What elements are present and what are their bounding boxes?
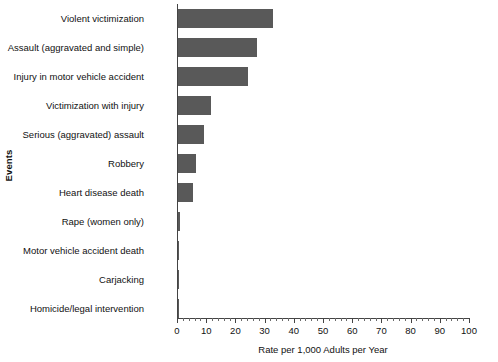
x-axis-major-tick [206, 318, 207, 323]
bar-row: Violent victimization [0, 4, 469, 33]
x-axis-minor-tick [358, 318, 359, 321]
category-label: Violent victimization [61, 4, 144, 33]
x-axis-minor-tick [341, 318, 342, 321]
x-axis-minor-tick [200, 318, 201, 321]
x-axis-minor-tick [405, 318, 406, 321]
x-axis-minor-tick [288, 318, 289, 321]
x-axis-minor-tick [446, 318, 447, 321]
x-axis-minor-tick [317, 318, 318, 321]
bar [178, 67, 248, 86]
x-axis-minor-tick [276, 318, 277, 321]
x-axis-minor-tick [335, 318, 336, 321]
x-axis-major-tick [294, 318, 295, 323]
bar-row: Motor vehicle accident death [0, 236, 469, 265]
bar-row: Robbery [0, 149, 469, 178]
bar [178, 9, 273, 28]
x-axis-minor-tick [346, 318, 347, 321]
x-axis-tick-label: 100 [449, 325, 489, 336]
x-axis-minor-tick [422, 318, 423, 321]
x-axis-minor-tick [253, 318, 254, 321]
x-axis-minor-tick [195, 318, 196, 321]
x-axis-major-tick [265, 318, 266, 323]
x-axis-major-tick [177, 318, 178, 323]
bar-track [178, 265, 470, 294]
x-axis-minor-tick [387, 318, 388, 321]
bar-track [178, 178, 470, 207]
category-label: Injury in motor vehicle accident [14, 62, 144, 91]
x-axis-minor-tick [311, 318, 312, 321]
bar-track [178, 33, 470, 62]
bar-track [178, 294, 470, 323]
bar-row: Carjacking [0, 265, 469, 294]
x-axis-minor-tick [376, 318, 377, 321]
bar [178, 212, 180, 231]
bar [178, 96, 211, 115]
bar-track [178, 236, 470, 265]
bar-chart: Events Violent victimizationAssault (agg… [0, 0, 498, 362]
x-axis-title: Rate per 1,000 Adults per Year [177, 344, 469, 355]
bar-row: Assault (aggravated and simple) [0, 33, 469, 62]
x-axis-minor-tick [300, 318, 301, 321]
category-label: Carjacking [99, 265, 144, 294]
bar [178, 154, 196, 173]
category-label: Rape (women only) [62, 207, 144, 236]
category-label: Robbery [108, 149, 144, 178]
category-label: Serious (aggravated) assault [23, 120, 144, 149]
category-label: Heart disease death [59, 178, 144, 207]
bar-track [178, 4, 470, 33]
x-axis-minor-tick [370, 318, 371, 321]
x-axis-minor-tick [183, 318, 184, 321]
category-label: Victimization with injury [46, 91, 144, 120]
x-axis-minor-tick [218, 318, 219, 321]
bar-row: Rape (women only) [0, 207, 469, 236]
category-label: Homicide/legal intervention [30, 294, 144, 323]
bar-track [178, 120, 470, 149]
x-axis-minor-tick [434, 318, 435, 321]
bar-row: Injury in motor vehicle accident [0, 62, 469, 91]
x-axis-minor-tick [416, 318, 417, 321]
x-axis-minor-tick [189, 318, 190, 321]
bar-track [178, 149, 470, 178]
category-label: Assault (aggravated and simple) [8, 33, 144, 62]
bar [178, 38, 257, 57]
x-axis-minor-tick [230, 318, 231, 321]
bar-row: Heart disease death [0, 178, 469, 207]
x-axis-major-tick [235, 318, 236, 323]
x-axis-major-tick [440, 318, 441, 323]
x-axis-minor-tick [393, 318, 394, 321]
x-axis-major-tick [323, 318, 324, 323]
x-axis-minor-tick [259, 318, 260, 321]
x-axis-minor-tick [364, 318, 365, 321]
x-axis-major-tick [381, 318, 382, 323]
x-axis-minor-tick [270, 318, 271, 321]
bar-track [178, 91, 470, 120]
x-axis-minor-tick [451, 318, 452, 321]
bar-track [178, 62, 470, 91]
x-axis-minor-tick [224, 318, 225, 321]
x-axis-minor-tick [399, 318, 400, 321]
bar [178, 183, 193, 202]
bar [178, 241, 179, 260]
x-axis-major-tick [411, 318, 412, 323]
bar-track [178, 207, 470, 236]
x-axis-minor-tick [329, 318, 330, 321]
x-axis-major-tick [469, 318, 470, 323]
x-axis-minor-tick [305, 318, 306, 321]
x-axis-minor-tick [463, 318, 464, 321]
x-axis-major-tick [352, 318, 353, 323]
x-axis-minor-tick [212, 318, 213, 321]
x-axis-minor-tick [247, 318, 248, 321]
x-axis-minor-tick [282, 318, 283, 321]
bar-row: Victimization with injury [0, 91, 469, 120]
bar-row: Serious (aggravated) assault [0, 120, 469, 149]
x-axis-minor-tick [428, 318, 429, 321]
x-axis-minor-tick [241, 318, 242, 321]
category-label: Motor vehicle accident death [23, 236, 144, 265]
bar [178, 125, 204, 144]
x-axis-minor-tick [457, 318, 458, 321]
